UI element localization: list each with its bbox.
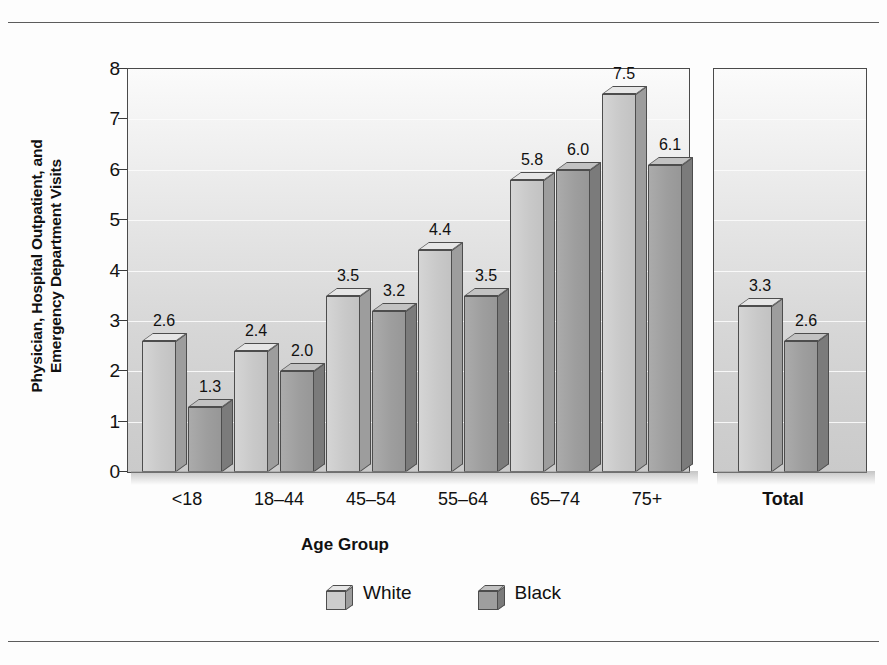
- bottom-divider-rule: [8, 641, 879, 642]
- floor-shadow-main: [131, 471, 698, 485]
- y-axis-tick-label: 5: [86, 210, 120, 229]
- x-axis-title: Age Group: [0, 535, 690, 555]
- bar-value-label: 6.1: [659, 137, 681, 153]
- x-axis-tick-label: <18: [172, 489, 203, 509]
- plot-area-main: 2.61.32.42.03.53.24.43.55.86.07.56.1: [127, 68, 690, 473]
- plot-area-total: 3.32.6: [713, 68, 867, 473]
- legend-swatch-black-icon: [478, 585, 498, 605]
- y-axis-tick-label: 3: [86, 310, 120, 329]
- bar-black-g2: [372, 311, 406, 472]
- y-axis: 012345678: [80, 0, 120, 665]
- y-axis-tick-mark: [118, 68, 127, 69]
- legend-item-white[interactable]: White: [326, 580, 412, 605]
- bar-value-label: 7.5: [613, 66, 635, 82]
- x-axis-tick-label-total: Total: [762, 489, 804, 509]
- bar-white-g1: [234, 351, 268, 472]
- y-axis-tick-mark: [118, 320, 127, 321]
- bar-value-label: 5.8: [521, 152, 543, 168]
- y-axis-tick-mark: [118, 270, 127, 271]
- y-axis-tick-mark: [118, 118, 127, 119]
- y-axis-tick-label: 1: [86, 411, 120, 430]
- legend: White Black: [0, 580, 887, 605]
- bar-black-g0: [188, 407, 222, 472]
- bar-white-g0: [142, 341, 176, 472]
- y-axis-tick-label: 4: [86, 260, 120, 279]
- y-axis-title-line1: Physician, Hospital Outpatient, and: [27, 139, 46, 392]
- x-axis-tick-label: 45–54: [346, 489, 396, 509]
- y-axis-tick-label: 2: [86, 361, 120, 380]
- bar-black-g3: [464, 296, 498, 472]
- bar-white-g2: [326, 296, 360, 472]
- x-axis-tick-label: 18–44: [254, 489, 304, 509]
- y-axis-tick-mark: [118, 169, 127, 170]
- bar-value-label: 3.5: [337, 268, 359, 284]
- bar-black-g1: [280, 371, 314, 472]
- gridline: [714, 321, 866, 322]
- bar-white-total: [738, 306, 772, 472]
- floor-shadow-total: [717, 471, 875, 485]
- legend-label-white: White: [363, 582, 412, 604]
- y-axis-tick-mark: [118, 370, 127, 371]
- bar-value-label: 3.2: [383, 283, 405, 299]
- bar-value-label: 2.6: [153, 313, 175, 329]
- y-axis-tick-label: 8: [86, 59, 120, 78]
- y-axis-tick-mark: [118, 471, 127, 472]
- bar-value-label: 3.3: [749, 278, 771, 294]
- gridline: [714, 119, 866, 120]
- bar-value-label: 2.4: [245, 323, 267, 339]
- bar-white-g3: [418, 250, 452, 472]
- bar-white-g5: [602, 94, 636, 472]
- bar-value-label: 2.6: [795, 313, 817, 329]
- y-axis-tick-mark: [118, 421, 127, 422]
- y-axis-tick-mark: [118, 219, 127, 220]
- gridline: [714, 220, 866, 221]
- bar-black-g5: [648, 165, 682, 472]
- bar-white-g4: [510, 180, 544, 472]
- gridline: [714, 271, 866, 272]
- bar-black-total: [784, 341, 818, 472]
- bar-value-label: 3.5: [475, 268, 497, 284]
- y-axis-tick-label: 7: [86, 109, 120, 128]
- y-axis-tick-label: 0: [86, 462, 120, 481]
- top-divider-rule: [8, 22, 879, 23]
- bar-value-label: 1.3: [199, 379, 221, 395]
- y-axis-title-line2: Emergency Department Visits: [46, 139, 65, 392]
- x-axis-tick-label: 65–74: [530, 489, 580, 509]
- y-axis-title: Physician, Hospital Outpatient, and Emer…: [18, 60, 74, 472]
- chart-figure: Physician, Hospital Outpatient, and Emer…: [0, 0, 887, 665]
- bar-black-g4: [556, 170, 590, 472]
- bar-value-label: 4.4: [429, 222, 451, 238]
- legend-label-black: Black: [515, 582, 561, 604]
- y-axis-tick-label: 6: [86, 159, 120, 178]
- legend-item-black[interactable]: Black: [478, 580, 561, 605]
- gridline: [714, 170, 866, 171]
- legend-swatch-white-icon: [326, 585, 346, 605]
- x-axis-tick-label: 55–64: [438, 489, 488, 509]
- bar-value-label: 6.0: [567, 142, 589, 158]
- x-axis-tick-label: 75+: [632, 489, 663, 509]
- bar-value-label: 2.0: [291, 343, 313, 359]
